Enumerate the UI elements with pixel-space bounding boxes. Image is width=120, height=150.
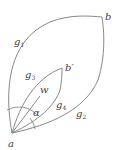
label-g2-sub: 2 bbox=[82, 113, 86, 120]
label-alpha: α bbox=[33, 107, 40, 118]
geodesic-diagram: a b b′ g1 g2 g3 g4 w α bbox=[0, 0, 120, 150]
label-point-b: b bbox=[105, 11, 111, 22]
label-g4-sub: 4 bbox=[62, 104, 66, 111]
label-g1-sub: 1 bbox=[20, 41, 24, 48]
label-point-a: a bbox=[8, 138, 14, 149]
label-w: w bbox=[40, 84, 49, 95]
label-g3: g3 bbox=[25, 69, 35, 81]
label-g3-sub: 3 bbox=[31, 74, 35, 81]
label-g2: g2 bbox=[76, 108, 86, 120]
label-g4: g4 bbox=[56, 99, 66, 111]
curve-g1 bbox=[9, 16, 102, 133]
label-g1: g1 bbox=[14, 36, 24, 48]
label-point-b-prime: b′ bbox=[65, 62, 74, 73]
